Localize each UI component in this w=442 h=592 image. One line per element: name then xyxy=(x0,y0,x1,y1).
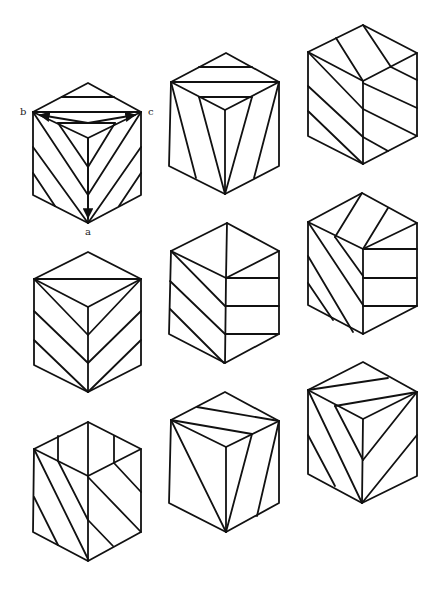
cube-edge xyxy=(171,82,225,110)
cube-edge xyxy=(362,419,363,503)
cube-edge xyxy=(34,279,88,307)
cube-9 xyxy=(308,362,417,503)
dissection-line xyxy=(34,340,88,392)
vertex-label-c: c xyxy=(148,106,154,117)
labels-layer: b c a xyxy=(20,106,154,237)
dissection-line xyxy=(88,311,141,363)
cube-edge xyxy=(88,279,141,307)
cube-outline xyxy=(33,422,141,561)
dissection-line xyxy=(335,406,363,460)
dissection-line xyxy=(308,283,333,320)
cube-edge xyxy=(225,82,279,110)
cube-7 xyxy=(33,422,141,561)
cube-edge xyxy=(34,449,88,476)
dissection-line xyxy=(34,497,58,545)
vertex-label-b: b xyxy=(20,106,26,117)
dissection-line xyxy=(58,461,88,520)
dissection-line xyxy=(171,420,252,434)
cube-edge xyxy=(225,278,226,363)
dissection-line xyxy=(171,82,196,178)
cube-4 xyxy=(34,252,141,392)
cube-outline xyxy=(33,83,141,223)
dissection-line xyxy=(88,279,141,335)
dissection-line xyxy=(170,281,225,334)
cube-2 xyxy=(169,53,279,194)
cube-outline xyxy=(169,53,279,194)
dissection-line xyxy=(254,82,279,178)
dissection-line xyxy=(34,279,88,335)
cube-8 xyxy=(169,392,279,532)
dissection-line xyxy=(226,434,252,532)
dissection-line xyxy=(308,52,363,109)
dissection-line xyxy=(308,435,335,486)
dissection-line xyxy=(34,311,88,363)
dissection-line xyxy=(308,86,363,137)
dissection-line xyxy=(114,463,141,492)
cube-5 xyxy=(169,223,279,363)
cube-6 xyxy=(308,193,417,334)
dissection-line xyxy=(170,309,224,363)
vertex-label-a: a xyxy=(85,226,91,237)
cube-figure: b c a xyxy=(0,0,442,592)
dissection-line xyxy=(226,223,227,278)
dissection-line xyxy=(308,111,363,164)
cube-1 xyxy=(33,83,141,223)
cube-edge xyxy=(171,251,226,278)
dissection-line xyxy=(88,477,141,532)
dissection-line xyxy=(58,123,88,167)
dissection-line xyxy=(88,340,141,392)
dissection-line xyxy=(88,520,113,546)
cube-edge xyxy=(308,390,363,419)
cube-outline xyxy=(169,223,279,363)
dissection-line xyxy=(225,97,252,194)
cube-outline xyxy=(169,392,279,532)
cubes-layer xyxy=(33,25,417,561)
cube-3 xyxy=(308,25,417,164)
dissection-line xyxy=(363,137,388,151)
dissection-line xyxy=(391,67,417,80)
dissection-line xyxy=(363,109,417,136)
dissection-line xyxy=(171,251,225,306)
dissection-line xyxy=(171,420,226,532)
dissection-line xyxy=(199,97,225,194)
dissection-line xyxy=(257,421,279,516)
dissection-line xyxy=(363,392,417,460)
dissection-line xyxy=(363,83,417,108)
dissection-line xyxy=(362,435,417,503)
cube-edge xyxy=(226,251,279,278)
